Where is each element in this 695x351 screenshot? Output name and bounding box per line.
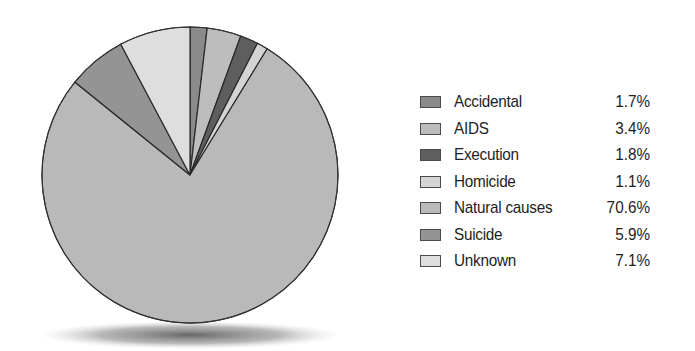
pie-slices [42, 27, 338, 323]
legend-swatch [420, 149, 441, 161]
legend-value: 70.6% [596, 198, 650, 218]
legend-value: 7.1% [596, 251, 650, 271]
legend-swatch [420, 255, 441, 267]
legend-item-natural-causes: Natural causes 70.6% [420, 195, 650, 222]
legend-swatch [420, 96, 441, 108]
legend-item-homicide: Homicide 1.1% [420, 169, 650, 196]
legend-value: 1.7% [596, 92, 650, 112]
legend-swatch [420, 123, 441, 135]
legend-item-suicide: Suicide 5.9% [420, 222, 650, 249]
legend-label: Suicide [454, 225, 576, 245]
legend-label: Homicide [454, 172, 576, 192]
legend-label: AIDS [454, 119, 576, 139]
legend-value: 1.1% [596, 172, 650, 192]
legend-item-execution: Execution 1.8% [420, 142, 650, 169]
legend-swatch [420, 229, 441, 241]
legend-swatch [420, 176, 441, 188]
pie-shadow [40, 321, 340, 349]
chart-legend: Accidental 1.7% AIDS 3.4% Execution 1.8%… [420, 89, 650, 275]
legend-label: Execution [454, 145, 576, 165]
legend-label: Natural causes [454, 198, 576, 218]
legend-label: Unknown [454, 251, 576, 271]
legend-item-unknown: Unknown 7.1% [420, 248, 650, 275]
legend-swatch [420, 202, 441, 214]
legend-value: 3.4% [596, 119, 650, 139]
legend-value: 1.8% [596, 145, 650, 165]
legend-item-accidental: Accidental 1.7% [420, 89, 650, 116]
pie-chart [0, 0, 400, 351]
legend-label: Accidental [454, 92, 576, 112]
legend-item-aids: AIDS 3.4% [420, 116, 650, 143]
legend-value: 5.9% [596, 225, 650, 245]
